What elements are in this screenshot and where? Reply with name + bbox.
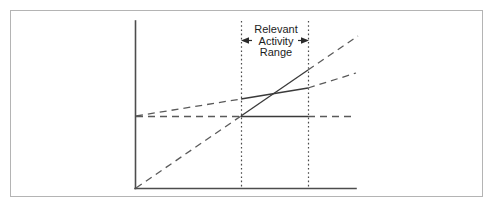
variable-cost-segment-left-dashed bbox=[136, 116, 241, 188]
mixed-cost-segment-left-dashed bbox=[136, 99, 241, 116]
range-label-line-2: Activity bbox=[259, 35, 294, 47]
figure-root: Relevant Activity Range bbox=[0, 0, 494, 210]
range-label-line-1: Relevant bbox=[254, 23, 297, 35]
range-label-line-3: Range bbox=[260, 46, 292, 58]
chart-axes bbox=[135, 21, 356, 189]
range-arrow-left-head bbox=[241, 37, 249, 43]
relevant-activity-range-label: Relevant Activity Range bbox=[254, 23, 297, 58]
series-mixed-cost-line bbox=[136, 73, 356, 116]
cost-behavior-chart: Relevant Activity Range bbox=[0, 0, 494, 210]
series-variable-cost-line bbox=[136, 36, 358, 188]
range-arrow-right-head bbox=[301, 37, 309, 43]
variable-cost-segment-relevant-solid bbox=[241, 70, 308, 116]
mixed-cost-segment-right-dashed bbox=[308, 73, 356, 88]
variable-cost-segment-right-dashed bbox=[308, 36, 358, 70]
